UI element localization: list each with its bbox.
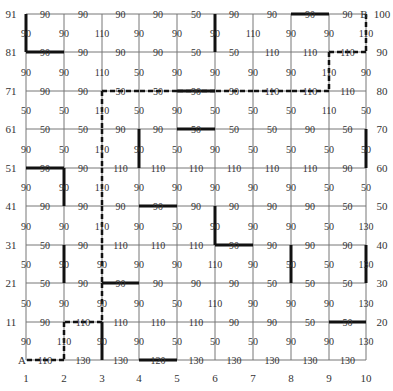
edge-weight-label: 90 (248, 259, 258, 270)
row-label-right: 50 (377, 201, 388, 212)
edge-weight-label: 90 (134, 182, 144, 193)
edge-weight-label: 90 (134, 259, 144, 270)
edge-weight-label: 90 (78, 86, 88, 97)
edge-weight-label: 90 (229, 86, 239, 97)
edge-weight-label: 50 (229, 124, 239, 135)
row-label-left: 41 (6, 201, 17, 212)
edge-weight-label: 130 (340, 355, 355, 366)
edge-weight-label: 90 (59, 259, 69, 270)
edge-weight-label: 50 (172, 336, 182, 347)
edge-weight-label: 50 (248, 336, 258, 347)
edge-weight-label: 90 (59, 297, 69, 308)
edge-weight-label: 90 (78, 163, 88, 174)
edge-weight-label: 110 (95, 182, 110, 193)
edge-weight-label: 90 (286, 220, 296, 231)
edge-weight-label: 110 (246, 28, 261, 39)
row-label-left: 91 (6, 9, 17, 20)
edge-weight-label: 90 (229, 317, 239, 328)
edge-weight-label: 50 (286, 143, 296, 154)
edge-weight-label: 90 (343, 240, 353, 251)
edge-weight-label: 130 (189, 355, 204, 366)
edge-weight-label: 90 (78, 47, 88, 58)
edge-weight-label: 50 (21, 259, 31, 270)
edge-weight-label: 90 (305, 124, 315, 135)
edge-weight-label: 90 (40, 317, 50, 328)
edge-weight-label: 90 (324, 28, 334, 39)
edge-weight-label: 90 (153, 124, 163, 135)
edge-weight-label: 130 (265, 355, 280, 366)
edge-weight-label: 50 (361, 182, 371, 193)
edge-weight-label: 50 (134, 66, 144, 77)
edge-weight-label: 50 (361, 105, 371, 116)
column-label: 3 (99, 373, 105, 384)
edge-weight-label: 50 (78, 124, 88, 135)
edge-weight-label: 50 (305, 278, 315, 289)
row-label-right: 90 (377, 47, 388, 58)
row-label-right: 80 (377, 86, 388, 97)
edge-weight-label: 90 (59, 28, 69, 39)
edge-weight-label: 50 (324, 259, 334, 270)
edge-weight-label: 90 (21, 182, 31, 193)
edge-weight-label: 50 (343, 201, 353, 212)
row-label-left: 81 (6, 47, 17, 58)
edge-weight-label: 50 (191, 124, 201, 135)
column-label: 4 (136, 373, 142, 384)
edge-weight-label: 90 (97, 336, 107, 347)
edge-weight-label: 90 (134, 28, 144, 39)
column-label: 10 (361, 373, 372, 384)
edge-weight-label: 130 (303, 355, 318, 366)
row-label-right: 100 (374, 9, 391, 20)
column-label: 9 (326, 373, 332, 384)
row-label-left: 11 (6, 317, 17, 328)
edge-weight-label: 90 (97, 297, 107, 308)
edge-weight-label: 50 (21, 297, 31, 308)
edge-weight-label: 90 (191, 86, 201, 97)
edge-weight-label: 110 (340, 47, 355, 58)
edge-weight-label: 110 (359, 28, 374, 39)
edge-weight-label: 90 (172, 182, 182, 193)
edge-weight-label: 110 (95, 220, 110, 231)
edge-weight-label: 90 (248, 182, 258, 193)
edge-weight-label: 110 (303, 86, 318, 97)
row-label-right: 40 (377, 240, 388, 251)
edge-weight-label: 110 (340, 86, 355, 97)
edge-weight-label: 110 (208, 297, 223, 308)
edge-weight-label: 50 (116, 86, 126, 97)
edge-weight-label: 90 (267, 240, 277, 251)
edge-weight-label: 50 (153, 86, 163, 97)
edge-weight-label: 130 (227, 355, 242, 366)
column-label: 2 (61, 373, 67, 384)
edge-weight-label: 110 (265, 86, 280, 97)
edge-weight-label: 90 (286, 66, 296, 77)
edge-weight-label: 90 (210, 28, 220, 39)
edge-weight-label: 90 (248, 297, 258, 308)
grid-diagram: 9090909050909090909090909050501101101109… (0, 0, 393, 391)
edge-weight-label: 90 (116, 278, 126, 289)
edge-weight-label: 90 (153, 9, 163, 20)
column-label: 5 (174, 373, 180, 384)
edge-weight-label: 90 (267, 317, 277, 328)
edge-weight-label: 90 (134, 220, 144, 231)
edge-weight-label: 50 (248, 105, 258, 116)
edge-weight-label: 130 (76, 355, 91, 366)
edge-weight-label: 110 (151, 240, 166, 251)
column-label: 1 (23, 373, 29, 384)
edge-weight-label: 110 (95, 143, 110, 154)
edge-weight-label: 50 (324, 220, 334, 231)
end-node-label: B (360, 9, 367, 20)
edge-weight-label: 90 (248, 66, 258, 77)
edge-weight-label: 110 (208, 259, 223, 270)
edge-weight-label: 110 (95, 105, 110, 116)
edge-weight-label: 110 (189, 317, 204, 328)
edge-weight-label: 90 (97, 259, 107, 270)
edge-weight-label: 90 (59, 66, 69, 77)
edge-weight-label: 90 (305, 9, 315, 20)
edge-weight-label: 50 (324, 182, 334, 193)
edge-weight-label: 130 (359, 259, 374, 270)
column-label: 6 (212, 373, 218, 384)
edge-weight-label: 90 (21, 66, 31, 77)
edge-weight-label: 90 (172, 28, 182, 39)
edge-weight-label: 90 (286, 297, 296, 308)
edge-weight-label: 50 (134, 105, 144, 116)
edge-weight-label: 90 (267, 9, 277, 20)
